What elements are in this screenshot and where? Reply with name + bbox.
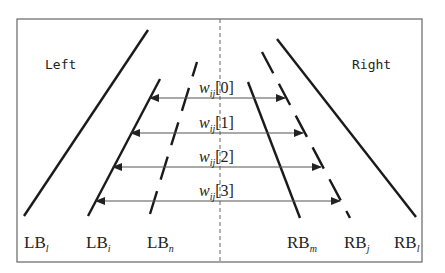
boundary-label-lb-i: LBi	[86, 233, 111, 254]
width-arrows: wij[0]wij[1]wij[2]wij[3]	[96, 79, 340, 202]
boundary-label-rb-m: RBm	[287, 233, 317, 254]
boundary-label-lb-n: LBn	[147, 233, 174, 254]
boundary-label-lb-l: LBl	[24, 233, 49, 254]
right-region-label: Right	[352, 57, 391, 72]
width-label-1: wij[1]	[199, 114, 234, 134]
boundary-label-rb-j: RBj	[344, 233, 370, 254]
boundary-lb-i	[88, 79, 160, 216]
width-label-3: wij[3]	[199, 182, 234, 202]
boundary-rb-m	[248, 82, 300, 218]
boundary-label-rb-l: RBl	[394, 233, 420, 254]
boundary-lb-l	[24, 30, 148, 216]
left-region-label: Left	[45, 57, 76, 72]
lane-width-diagram: Left Right wij[0]wij[1]wij[2]wij[3] LBlL…	[0, 0, 445, 273]
width-label-0: wij[0]	[199, 79, 234, 99]
boundary-labels: LBlLBiLBnRBmRBjRBl	[24, 233, 420, 254]
boundary-rb-l	[277, 39, 416, 217]
width-label-2: wij[2]	[199, 148, 234, 168]
